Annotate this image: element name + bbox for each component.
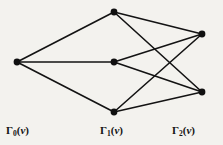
graph-node — [111, 59, 118, 66]
paren-close: ) — [191, 124, 195, 136]
graph-edge — [114, 34, 202, 112]
paren-close: ) — [25, 124, 29, 136]
graph-edge — [114, 34, 202, 62]
layer-label-gamma2: Γ2(v) — [172, 124, 195, 138]
graph-edge — [17, 62, 114, 112]
graph-node — [14, 59, 21, 66]
graph-edge — [17, 12, 114, 62]
graph-node — [199, 89, 206, 96]
graph-node — [199, 31, 206, 38]
edges-group — [17, 12, 202, 112]
paren-close: ) — [119, 124, 123, 136]
layer-label-gamma0: Γ0(v) — [6, 124, 29, 138]
gamma-symbol: Γ — [172, 124, 179, 136]
graph-node — [111, 109, 118, 116]
graph-edge — [114, 92, 202, 112]
layer-label-gamma1: Γ1(v) — [100, 124, 123, 138]
figure-canvas: Γ0(v) Γ1(v) Γ2(v) — [0, 0, 223, 145]
graph-node — [111, 9, 118, 16]
graph-edge — [114, 62, 202, 92]
gamma-symbol: Γ — [100, 124, 107, 136]
graph-edge — [114, 12, 202, 92]
gamma-symbol: Γ — [6, 124, 13, 136]
